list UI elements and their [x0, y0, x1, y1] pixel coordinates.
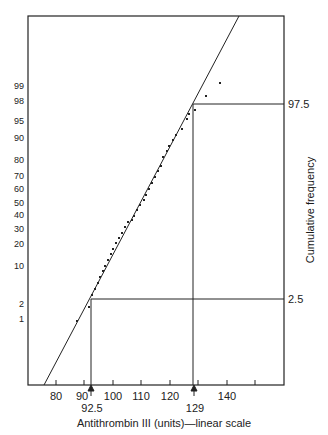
- y-tick-label: 80: [10, 155, 24, 165]
- data-points: [76, 82, 221, 322]
- x-tick-label: 140: [215, 391, 239, 401]
- y-tick-label: 50: [10, 198, 24, 208]
- y-tick-label: 10: [10, 261, 24, 271]
- plot-frame: [28, 16, 284, 385]
- y-tick-label: 99: [10, 81, 24, 91]
- x-axis-title: Antithrombin III (units)—linear scale: [0, 418, 328, 428]
- x-axis-ticks: [56, 380, 255, 385]
- y-tick-label: 40: [10, 210, 24, 220]
- y-tick-label: 95: [10, 116, 24, 126]
- y-tick-label: 98: [10, 96, 24, 106]
- ref-label-upper: 97.5: [288, 99, 309, 109]
- y-axis-title: Cumulative frequency: [304, 157, 316, 263]
- probability-plot: [0, 0, 328, 435]
- marker-label-high: 129: [183, 403, 207, 413]
- marker-label-low: 92.5: [80, 403, 104, 413]
- x-tick-label: 90: [70, 391, 94, 401]
- y-tick-label: 20: [10, 239, 24, 249]
- x-tick-label: 120: [158, 391, 182, 401]
- x-tick-label: 80: [44, 391, 68, 401]
- x-tick-label: 100: [101, 391, 125, 401]
- y-tick-label: 30: [10, 224, 24, 234]
- y-tick-label: 60: [10, 184, 24, 194]
- y-tick-label: 90: [10, 133, 24, 143]
- y-tick-label: 70: [10, 171, 24, 181]
- ref-label-lower: 2.5: [288, 294, 303, 304]
- y-tick-label: 1: [10, 314, 24, 324]
- fitted-line: [44, 16, 239, 385]
- x-tick-label: 110: [129, 391, 153, 401]
- y-tick-label: 2: [10, 299, 24, 309]
- reference-lines: [91, 104, 284, 385]
